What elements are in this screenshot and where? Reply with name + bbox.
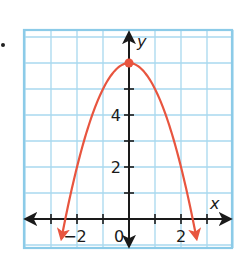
y-tick-label: 4 <box>111 106 121 125</box>
x-tick-label: 0 <box>114 227 124 246</box>
vertex-point <box>125 59 134 68</box>
tick-labels: −20224 <box>63 106 186 246</box>
x-axis-label: x <box>209 194 220 213</box>
x-tick-label: −2 <box>63 227 87 246</box>
y-axis-label: y <box>136 32 147 51</box>
x-tick-label: 2 <box>176 227 186 246</box>
y-tick-label: 2 <box>111 158 121 177</box>
parabola-chart: −20224 x y <box>0 0 244 263</box>
